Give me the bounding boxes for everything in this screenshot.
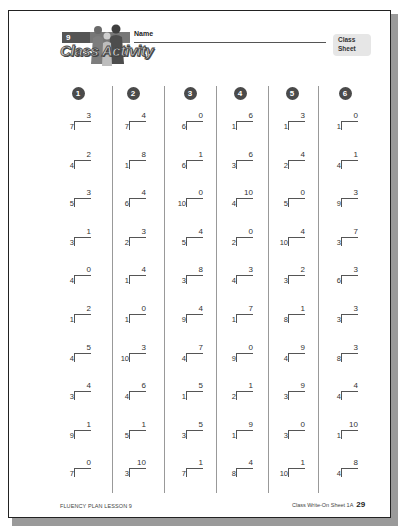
division-bracket-icon[interactable] xyxy=(288,198,305,207)
division-bracket-icon[interactable] xyxy=(341,121,358,130)
division-problem: 90 xyxy=(220,341,260,363)
division-bracket-icon[interactable] xyxy=(129,275,146,284)
division-problem: 64 xyxy=(113,186,153,208)
division-bracket-icon[interactable] xyxy=(186,121,203,130)
quotient: 7 xyxy=(186,343,203,353)
quotient: 9 xyxy=(236,420,253,430)
division-problem: 74 xyxy=(113,109,153,131)
quotient: 4 xyxy=(186,227,203,237)
division-bracket-icon[interactable] xyxy=(129,430,146,439)
division-bracket-icon[interactable] xyxy=(341,198,358,207)
division-bracket-icon[interactable] xyxy=(236,237,253,246)
division-bracket-icon[interactable] xyxy=(341,353,358,362)
quotient: 7 xyxy=(236,304,253,314)
division-problem: 40 xyxy=(58,263,98,285)
division-bracket-icon[interactable] xyxy=(74,160,91,169)
quotient: 1 xyxy=(74,420,91,430)
division-bracket-icon[interactable] xyxy=(129,198,146,207)
division-bracket-icon[interactable] xyxy=(186,430,203,439)
division-bracket-icon[interactable] xyxy=(129,121,146,130)
division-bracket-icon[interactable] xyxy=(186,353,203,362)
division-problem: 44 xyxy=(325,379,365,401)
division-bracket-icon[interactable] xyxy=(288,237,305,246)
division-bracket-icon[interactable] xyxy=(288,314,305,323)
division-bracket-icon[interactable] xyxy=(288,468,305,477)
division-problem: 13 xyxy=(272,109,312,131)
name-line[interactable] xyxy=(134,42,326,43)
division-problem: 34 xyxy=(58,379,98,401)
division-problem: 73 xyxy=(58,109,98,131)
division-problem: 36 xyxy=(220,148,260,170)
division-bracket-icon[interactable] xyxy=(341,275,358,284)
division-bracket-icon[interactable] xyxy=(236,314,253,323)
division-bracket-icon[interactable] xyxy=(236,430,253,439)
quotient: 0 xyxy=(288,188,305,198)
division-problem: 16 xyxy=(220,109,260,131)
footer-sheet-label: Class Write-On Sheet 1A29 xyxy=(292,500,365,509)
division-bracket-icon[interactable] xyxy=(129,314,146,323)
division-bracket-icon[interactable] xyxy=(74,314,91,323)
division-bracket-icon[interactable] xyxy=(74,391,91,400)
division-problem: 54 xyxy=(170,225,210,247)
division-bracket-icon[interactable] xyxy=(186,468,203,477)
division-bracket-icon[interactable] xyxy=(74,468,91,477)
division-bracket-icon[interactable] xyxy=(74,430,91,439)
division-bracket-icon[interactable] xyxy=(129,237,146,246)
division-bracket-icon[interactable] xyxy=(236,198,253,207)
division-bracket-icon[interactable] xyxy=(288,160,305,169)
division-bracket-icon[interactable] xyxy=(186,391,203,400)
division-bracket-icon[interactable] xyxy=(129,391,146,400)
division-bracket-icon[interactable] xyxy=(341,314,358,323)
quotient: 0 xyxy=(129,304,146,314)
division-bracket-icon[interactable] xyxy=(288,121,305,130)
division-bracket-icon[interactable] xyxy=(186,314,203,323)
division-bracket-icon[interactable] xyxy=(288,430,305,439)
division-bracket-icon[interactable] xyxy=(236,391,253,400)
division-bracket-icon[interactable] xyxy=(341,391,358,400)
division-bracket-icon[interactable] xyxy=(129,468,146,477)
division-bracket-icon[interactable] xyxy=(186,237,203,246)
column-number-badge: 6 xyxy=(339,87,352,100)
quotient: 0 xyxy=(186,188,203,198)
division-problem: 310 xyxy=(113,456,153,478)
division-problem: 81 xyxy=(272,302,312,324)
division-problem: 30 xyxy=(272,418,312,440)
division-bracket-icon[interactable] xyxy=(74,198,91,207)
division-problem: 46 xyxy=(113,379,153,401)
division-bracket-icon[interactable] xyxy=(236,275,253,284)
division-bracket-icon[interactable] xyxy=(74,275,91,284)
division-problem: 18 xyxy=(113,148,153,170)
division-problem: 10 xyxy=(113,302,153,324)
division-bracket-icon[interactable] xyxy=(236,353,253,362)
division-bracket-icon[interactable] xyxy=(288,391,305,400)
division-bracket-icon[interactable] xyxy=(186,160,203,169)
quotient: 9 xyxy=(288,381,305,391)
quotient: 3 xyxy=(341,188,358,198)
division-bracket-icon[interactable] xyxy=(74,353,91,362)
division-problem: 21 xyxy=(220,379,260,401)
division-bracket-icon[interactable] xyxy=(236,468,253,477)
division-bracket-icon[interactable] xyxy=(236,121,253,130)
division-bracket-icon[interactable] xyxy=(129,160,146,169)
quotient: 8 xyxy=(341,458,358,468)
division-bracket-icon[interactable] xyxy=(341,237,358,246)
quotient: 9 xyxy=(288,343,305,353)
division-bracket-icon[interactable] xyxy=(186,275,203,284)
quotient: 1 xyxy=(186,150,203,160)
division-bracket-icon[interactable] xyxy=(129,353,146,362)
sheet-tag-line2: Sheet xyxy=(338,45,366,54)
division-problem: 41 xyxy=(325,148,365,170)
division-bracket-icon[interactable] xyxy=(341,430,358,439)
division-bracket-icon[interactable] xyxy=(236,160,253,169)
quotient: 1 xyxy=(74,227,91,237)
division-bracket-icon[interactable] xyxy=(186,198,203,207)
division-problem: 37 xyxy=(325,225,365,247)
division-bracket-icon[interactable] xyxy=(341,468,358,477)
division-problem: 100 xyxy=(170,186,210,208)
quotient: 1 xyxy=(129,420,146,430)
division-bracket-icon[interactable] xyxy=(74,237,91,246)
division-bracket-icon[interactable] xyxy=(288,275,305,284)
division-bracket-icon[interactable] xyxy=(341,160,358,169)
division-bracket-icon[interactable] xyxy=(288,353,305,362)
division-bracket-icon[interactable] xyxy=(74,121,91,130)
